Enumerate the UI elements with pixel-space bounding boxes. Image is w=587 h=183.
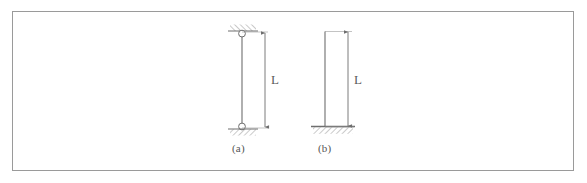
caption-b: (b) [318, 142, 331, 154]
bottom-hatch-a [230, 129, 256, 136]
dimension-label-b: L [354, 72, 362, 88]
diagram-b-group [311, 32, 355, 134]
base-hatch-b [313, 127, 353, 134]
diagram-a-group [228, 25, 268, 136]
dimension-line-b [325, 32, 354, 127]
diagram-b-fixed-base [311, 127, 355, 134]
column-diagram-svg [0, 0, 587, 183]
figure-container: L L (a) (b) [0, 0, 587, 183]
dimension-line-a [242, 32, 268, 128]
top-pin-circle-a [239, 30, 246, 37]
caption-a: (a) [232, 142, 245, 154]
dimension-label-a: L [271, 72, 279, 88]
diagram-a-bottom-support [228, 123, 258, 135]
diagram-a-top-support [228, 25, 258, 38]
